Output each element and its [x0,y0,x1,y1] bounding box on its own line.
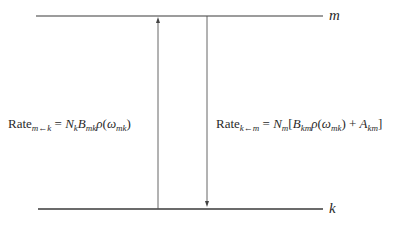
omega-symbol: ω [322,116,331,131]
einstein-b-subscript: mk [86,123,97,133]
einstein-a-subscript: km [368,123,379,133]
rate-subscript: k←m [240,123,260,133]
rate-subscript: m←k [32,123,52,133]
absorption-rate-equation: Ratem←k = NkBmkρ(ωmk) [8,117,131,130]
einstein-a-symbol: A [360,116,368,131]
population-symbol: N [65,116,74,131]
lower-level-label: k [329,201,336,216]
population-symbol: N [273,116,282,131]
einstein-b-symbol: B [78,116,86,131]
rate-word: Rate [8,116,32,131]
close-bracket: ] [378,116,382,131]
omega-symbol: ω [107,116,116,131]
emission-arrowhead-icon [205,201,209,207]
equals-sign: = [55,116,62,131]
rate-word: Rate [216,116,240,131]
omega-subscript: mk [116,123,127,133]
close-paren: ) [341,116,345,131]
equals-sign: = [263,116,270,131]
emission-rate-equation: Ratek←m = Nm[Bkmρ(ωmk) + Akm] [216,117,382,130]
energy-level-diagram: m k Ratem←k = NkBmkρ(ωmk) Ratek←m = Nm[B… [0,0,412,227]
einstein-b-subscript: km [301,123,312,133]
einstein-b-symbol: B [293,116,301,131]
plus-sign: + [349,116,356,131]
diagram-lines [0,0,412,227]
close-paren: ) [127,116,131,131]
omega-subscript: mk [331,123,342,133]
upper-level-label: m [329,8,340,23]
absorption-arrowhead-icon [156,17,160,23]
